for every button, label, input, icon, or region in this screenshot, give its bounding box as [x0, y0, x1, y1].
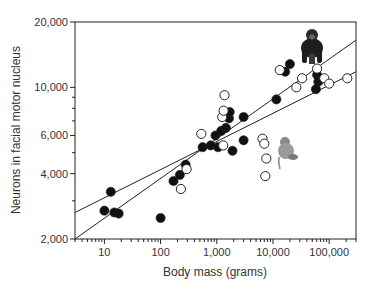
open-data-point	[275, 66, 284, 75]
y-axis-label: Neurons in facial motor nucleus	[9, 46, 23, 214]
open-data-point	[182, 165, 191, 174]
filled-data-point	[100, 206, 109, 215]
y-tick-label: 10,000	[34, 81, 68, 93]
x-axis-label: Body mass (grams)	[163, 265, 267, 279]
filled-data-point	[156, 213, 165, 222]
scatter-chart: 101001,00010,000100,000 2,0004,0006,0001…	[0, 0, 371, 293]
x-tick-label: 10,000	[256, 246, 290, 258]
y-tick-label: 6,000	[40, 129, 68, 141]
filled-data-point	[285, 60, 294, 69]
x-tick-label: 1,000	[203, 246, 231, 258]
y-tick-label: 4,000	[40, 168, 68, 180]
x-tick-label: 100	[151, 246, 169, 258]
open-data-point	[298, 74, 307, 83]
filled-data-point	[228, 146, 237, 155]
open-data-point	[313, 64, 322, 73]
x-tick-label: 100,000	[309, 246, 349, 258]
x-tick-label: 10	[98, 246, 110, 258]
filled-data-point	[198, 143, 207, 152]
open-data-point	[219, 141, 228, 150]
open-data-point	[220, 91, 229, 100]
x-axis-ticks: 101001,00010,000100,000	[75, 239, 356, 258]
filled-data-point	[239, 136, 248, 145]
open-data-point	[261, 172, 270, 181]
chimpanzee-icon	[301, 29, 323, 64]
open-data-point	[343, 74, 352, 83]
filled-data-point	[106, 187, 115, 196]
open-data-point	[197, 129, 206, 138]
y-axis-ticks: 2,0004,0006,00010,00020,000	[34, 16, 75, 245]
open-data-point	[325, 79, 334, 88]
monkey-icon	[278, 137, 298, 169]
filled-data-point	[272, 95, 281, 104]
filled-data-point	[239, 112, 248, 121]
filled-data-point	[221, 123, 230, 132]
open-data-point	[176, 184, 185, 193]
open-data-point	[260, 139, 269, 148]
open-data-point	[292, 83, 301, 92]
open-data-point	[262, 154, 271, 163]
filled-data-point	[114, 209, 123, 218]
y-tick-label: 2,000	[40, 233, 68, 245]
open-data-point	[219, 106, 228, 115]
data-points	[100, 60, 352, 223]
y-tick-label: 20,000	[34, 16, 68, 28]
